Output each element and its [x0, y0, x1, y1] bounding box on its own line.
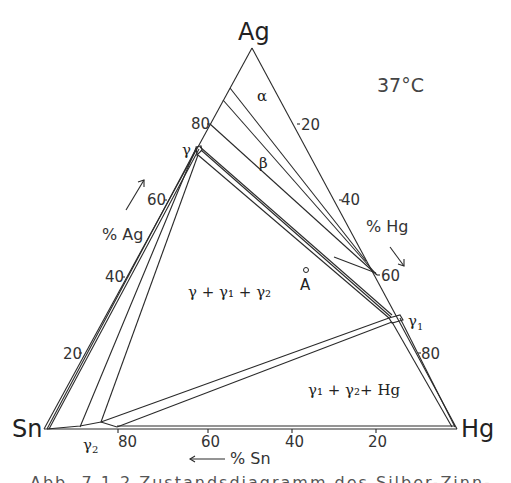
alpha-beta-boundaries: [210, 88, 377, 275]
vertex-label-ag: Ag: [238, 18, 270, 46]
axis-hg: % Hg: [366, 217, 408, 266]
tick-label-ag-80: 80: [191, 115, 210, 133]
temperature-label: 37°C: [377, 74, 424, 96]
tick-label-hg-40: 40: [341, 191, 360, 209]
arrow-down-right-icon: [390, 247, 404, 266]
ternary-phase-diagram: Ag Sn Hg 37°C α β γ γ 1 γ 2 γ + γ₁ + γ₂ …: [0, 0, 511, 483]
gamma1-hg-tie-lines: [392, 318, 455, 427]
tick-label-hg-60: 60: [381, 267, 400, 285]
tick-label-ag-20: 20: [63, 345, 82, 363]
axis-sn: % Sn: [190, 449, 271, 468]
vertex-label-hg: Hg: [461, 415, 494, 443]
svg-text:2: 2: [92, 444, 98, 455]
svg-text:γ: γ: [408, 312, 417, 330]
phase-label-gamma2: γ 2: [83, 436, 98, 455]
phase-label-gamma1: γ 1: [408, 312, 423, 332]
figure-caption: Abb. 7.1.2 Zustandsdiagramm des Silber-Z…: [30, 470, 510, 483]
vertex-label-sn: Sn: [12, 415, 42, 443]
gamma-gamma2-tie-lines: [80, 148, 198, 427]
region-label-gamma1-gamma2-hg: γ₁ + γ₂+ Hg: [308, 381, 400, 399]
axis-label-sn: % Sn: [230, 449, 271, 468]
point-a-marker: [304, 268, 309, 273]
region-label-gamma-gamma1-gamma2: γ + γ₁ + γ₂: [188, 283, 271, 301]
arrow-up-right-icon: [126, 180, 144, 210]
axis-label-ag: % Ag: [102, 225, 143, 244]
tick-label-hg-80: 80: [421, 345, 440, 363]
phase-label-gamma: γ: [182, 141, 191, 159]
point-a-label: A: [300, 276, 311, 294]
svg-text:γ: γ: [83, 436, 92, 454]
phase-label-alpha: α: [257, 87, 267, 105]
phase-label-beta: β: [259, 154, 268, 172]
tick-label-sn-60: 60: [201, 433, 220, 451]
tick-label-ag-60: 60: [147, 191, 166, 209]
tick-label-ag-40: 40: [105, 268, 124, 286]
axis-label-hg: % Hg: [366, 217, 408, 236]
tick-label-sn-80: 80: [118, 433, 137, 451]
tick-label-sn-20: 20: [368, 433, 387, 451]
axis-ag: % Ag: [102, 180, 144, 244]
svg-text:1: 1: [417, 321, 423, 332]
tick-label-hg-20: 20: [301, 116, 320, 134]
tick-label-sn-40: 40: [285, 433, 304, 451]
